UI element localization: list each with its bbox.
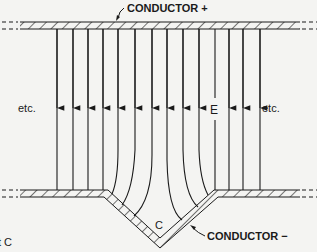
positive-conductor — [2, 22, 317, 29]
leader-negative-arrowhead-icon — [190, 225, 196, 230]
etc-left-label: etc. — [18, 102, 36, 114]
leader-negative — [193, 228, 205, 236]
conductor-positive-label: CONDUCTOR + — [127, 2, 208, 14]
cropped-caption: t C — [0, 236, 12, 248]
etc-right-label: etc. — [262, 102, 280, 114]
cavity-label: C — [155, 219, 163, 231]
field-label: E — [210, 103, 218, 117]
conductor-negative-label: CONDUCTOR − — [207, 230, 288, 242]
field-lines-diagram: CONDUCTOR + CONDUCTOR − etc. etc. E C t … — [0, 0, 317, 252]
leader-positive-arrowhead-icon — [116, 15, 120, 21]
